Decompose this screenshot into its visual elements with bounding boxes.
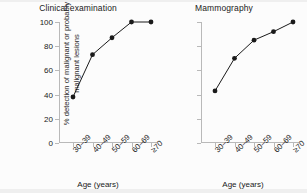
x-axis-title-right: Age (years): [183, 180, 303, 189]
y-axis-tick-label: 40: [44, 90, 53, 99]
data-series: [201, 22, 299, 143]
y-axis-tick-label: 80: [44, 42, 53, 51]
figure-root: Clinical examination % detection of mali…: [0, 0, 307, 193]
bottom-border-band: [0, 189, 307, 193]
data-point-marker: [252, 38, 257, 43]
plot-area-right: 30–3940–4950–5960–69≥70: [201, 22, 299, 143]
y-axis-tick: [197, 143, 201, 144]
data-point-marker: [71, 95, 76, 100]
data-point-marker: [232, 56, 237, 61]
data-point-marker: [291, 20, 296, 25]
data-point-marker: [129, 20, 134, 25]
panel-mammography: Mammography 30–3940–4950–5960–69≥70 Age …: [165, 0, 307, 193]
y-axis-tick-label: 0: [49, 139, 53, 148]
data-point-marker: [90, 52, 95, 57]
data-point-marker: [213, 89, 218, 94]
panel-clinical-examination: Clinical examination % detection of mali…: [0, 0, 165, 193]
series-line: [215, 22, 293, 91]
series-line: [73, 22, 151, 97]
y-axis-tick-label: 60: [44, 66, 53, 75]
data-point-marker: [149, 20, 154, 25]
panel-title-right: Mammography: [159, 3, 289, 13]
y-axis-tick-label: 20: [44, 114, 53, 123]
data-point-marker: [110, 35, 115, 40]
y-axis-tick: [55, 143, 59, 144]
data-point-marker: [271, 29, 276, 34]
x-axis-title-left: Age (years): [38, 180, 158, 189]
data-series: [59, 22, 157, 143]
y-axis-tick-label: 100: [40, 18, 53, 27]
plot-area-left: % detection of malignant or probably mal…: [59, 22, 157, 143]
